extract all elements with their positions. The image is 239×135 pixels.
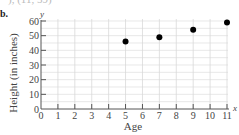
x-tick-label: 8	[174, 110, 179, 121]
x-tick-label: 9	[191, 110, 196, 121]
data-point	[190, 27, 196, 33]
x-tick-label: 2	[72, 110, 77, 121]
x-tick-label: 3	[89, 110, 94, 121]
data-point	[224, 19, 230, 25]
y-tick-label: 10	[29, 89, 39, 100]
y-tick-label: 0	[34, 104, 39, 115]
x-axis-title: Age	[124, 120, 142, 132]
y-tick-label: 60	[29, 16, 39, 27]
y-variable-label: y	[39, 9, 44, 19]
x-tick-label: 10	[205, 110, 215, 121]
y-tick-label: 30	[29, 60, 39, 71]
x-tick-label: 11	[222, 110, 232, 121]
scatter-chart: 012345678910110102030405060yxAgeHeight (…	[0, 0, 239, 135]
y-axis-title: Height (in inches)	[7, 33, 20, 113]
y-tick-label: 50	[29, 30, 39, 41]
data-point	[156, 34, 162, 40]
x-variable-label: x	[232, 103, 237, 113]
y-tick-label: 40	[29, 45, 39, 56]
data-point	[123, 39, 129, 45]
x-tick-label: 1	[55, 110, 60, 121]
y-tick-label: 20	[29, 74, 39, 85]
x-tick-label: 4	[106, 110, 111, 121]
x-tick-label: 0	[39, 110, 44, 121]
x-tick-label: 7	[157, 110, 162, 121]
